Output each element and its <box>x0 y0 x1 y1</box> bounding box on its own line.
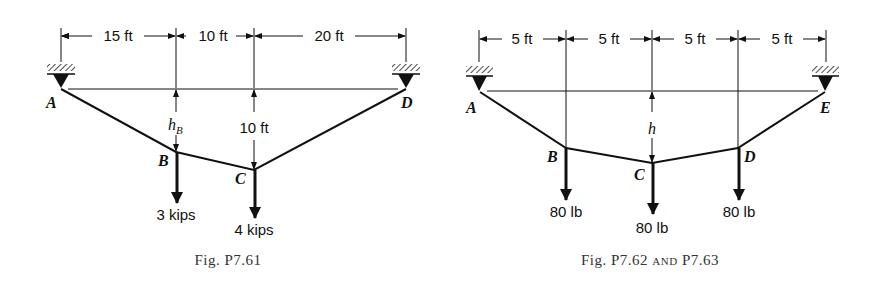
pin-support-icon <box>47 64 75 88</box>
point-label-d: D <box>743 148 756 165</box>
sag-label: h <box>648 120 656 137</box>
pin-support-icon <box>812 66 839 91</box>
point-label-c: C <box>634 166 645 183</box>
load-label: 80 lb <box>636 219 669 236</box>
point-label-e: E <box>819 99 831 116</box>
sag-label: hB <box>168 116 183 136</box>
load-label: 3 kips <box>156 206 195 223</box>
dimension-label: 5 ft <box>512 30 534 47</box>
pin-support-icon <box>392 64 420 88</box>
dimension-label: 5 ft <box>685 30 707 47</box>
pin-support-icon <box>466 66 493 91</box>
point-label-a: A <box>465 99 477 116</box>
figure-caption: Fig. P7.62 and P7.63 <box>581 252 719 268</box>
load-label: 80 lb <box>723 203 756 220</box>
figure-p7-61: 15 ft 10 ft 20 ft hB 10 ft 3 kips 4 ki <box>45 27 420 268</box>
point-label-b: B <box>546 148 558 165</box>
dimension-label: 20 ft <box>314 27 344 44</box>
load-label: 80 lb <box>550 203 583 220</box>
dimension-label: 15 ft <box>103 27 133 44</box>
cable <box>61 89 406 170</box>
load-label: 4 kips <box>234 221 273 238</box>
cable-diagrams: 15 ft 10 ft 20 ft hB 10 ft 3 kips 4 ki <box>0 0 880 281</box>
point-label-c: C <box>235 170 246 187</box>
point-label-b: B <box>157 152 169 169</box>
sag-label: 10 ft <box>239 119 269 136</box>
dimension-label: 5 ft <box>772 30 794 47</box>
dimension-label: 5 ft <box>599 30 621 47</box>
point-label-d: D <box>400 94 413 111</box>
figure-p7-62-p7-63: 5 ft 5 ft 5 ft 5 ft h 80 lb 80 lb 80 lb … <box>465 30 839 268</box>
dimension-label: 10 ft <box>198 27 228 44</box>
figure-caption: Fig. P7.61 <box>194 252 261 268</box>
point-label-a: A <box>45 94 57 111</box>
